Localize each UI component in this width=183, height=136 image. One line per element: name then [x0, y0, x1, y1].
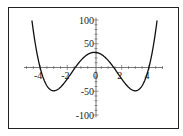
x-tick-label: 0 [93, 70, 98, 81]
y-tick-label: 100 [79, 15, 94, 26]
x-tick-label: -2 [61, 70, 69, 81]
y-tick-label: -100 [76, 110, 94, 121]
y-tick-label: -50 [81, 86, 94, 97]
function-plot: -4-202410050-50-100 [0, 0, 183, 136]
y-tick-label: 50 [84, 38, 94, 49]
